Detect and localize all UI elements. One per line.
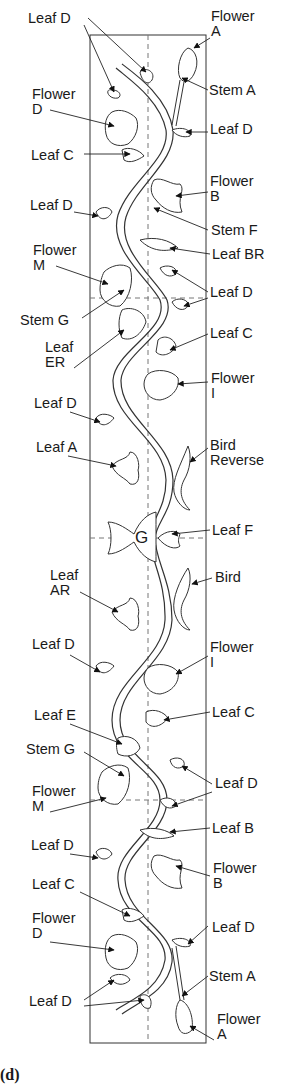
callout-label: Stem F: [211, 223, 258, 238]
callout-label: Flower A: [211, 9, 255, 39]
leader-flower-a-bottom: [190, 1026, 214, 1040]
callout-label: Leaf D: [30, 198, 73, 213]
callout-label: Stem A: [209, 969, 256, 984]
callout-label: Leaf D: [210, 122, 253, 137]
leader-leaf-er: [74, 330, 124, 368]
leaf-d-12: [172, 938, 190, 946]
flower-m-top: [100, 265, 132, 306]
leader-leaf-d-5: [172, 270, 208, 292]
leader-leaf-b: [170, 828, 210, 832]
callout-label: Leaf C: [31, 148, 74, 163]
leader-leaf-d-1a: [88, 18, 146, 72]
callout-label: Leaf D: [31, 838, 74, 853]
leader-stem-a-bottom: [182, 976, 208, 996]
callout-label: Leaf B: [212, 821, 254, 836]
callout-label: Leaf D: [29, 994, 72, 1009]
callout-label: Leaf C: [210, 326, 253, 341]
callout-label: Flower B: [213, 861, 257, 891]
flower-b-bottom: [151, 855, 182, 888]
figure-part-letter: (d): [0, 1066, 20, 1084]
leaf-ar: [112, 598, 139, 630]
leader-flower-d-bottom: [50, 942, 114, 950]
flower-d-bottom: [105, 934, 137, 969]
callout-label: Flower M: [32, 784, 76, 814]
callout-label: Leaf D: [215, 776, 258, 791]
callout-label: Stem G: [26, 742, 75, 757]
leader-leaf-a: [68, 456, 116, 466]
leaf-d-14: [140, 995, 151, 1009]
leaf-er: [119, 309, 146, 340]
leader-leaf-d-8: [70, 655, 100, 672]
callout-label: Flower D: [32, 87, 76, 117]
callout-label: Leaf D: [210, 285, 253, 300]
leader-leaf-d-12: [188, 926, 208, 944]
leaf-d-6: [172, 299, 188, 309]
flower-i-bottom: [144, 665, 178, 694]
callout-label: Leaf C: [212, 705, 255, 720]
leader-leaf-d-13: [84, 980, 114, 1000]
leaf-a: [112, 452, 139, 484]
leaf-c-bottom: [122, 908, 144, 921]
flower-a-top: [178, 48, 196, 81]
callout-label: Flower I: [210, 640, 254, 670]
leader-leaf-d-7: [70, 412, 100, 422]
leader-leaf-c-bottom: [80, 892, 130, 916]
leader-leaf-c-mid: [170, 334, 208, 350]
flower-a-bottom: [176, 1000, 193, 1033]
leader-leaf-c-lower: [164, 712, 210, 720]
callout-label: Leaf F: [212, 523, 253, 538]
leaf-d-13: [110, 974, 130, 984]
callout-label: Leaf D: [212, 920, 255, 935]
callout-label: Stem G: [20, 313, 69, 328]
stem-a-top: [172, 80, 184, 126]
center-g-motif: [108, 512, 156, 562]
leaf-d-11: [96, 848, 112, 859]
leader-flower-a-top: [194, 38, 210, 48]
flower-d-top: [105, 110, 137, 145]
callout-label: Leaf A: [36, 440, 77, 455]
callout-label: Leaf ER: [45, 340, 73, 370]
leaf-d-7: [96, 414, 114, 425]
leader-bird: [192, 578, 212, 584]
leaf-d-4: [96, 208, 112, 219]
callout-label: Bird: [215, 570, 241, 585]
leader-flower-i-bottom: [176, 656, 208, 674]
leader-leaf-d-9: [182, 766, 212, 784]
callout-label: Flower D: [32, 911, 76, 941]
callout-label: Leaf BR: [212, 247, 264, 262]
leader-leaf-d-11: [70, 854, 98, 858]
leader-flower-i-top: [178, 382, 208, 384]
leaf-c-top: [122, 148, 144, 161]
callout-label: Leaf D: [28, 11, 71, 26]
callout-label: Leaf AR: [50, 568, 78, 598]
callout-label: Flower I: [211, 371, 255, 401]
leaf-b: [140, 828, 174, 838]
leader-bird-reverse: [190, 448, 208, 462]
bird-reverse: [174, 446, 190, 510]
callout-label: Stem A: [209, 83, 256, 98]
callout-label: Leaf C: [32, 877, 75, 892]
leader-leaf-d-4: [74, 212, 98, 216]
leaf-d-3: [172, 128, 190, 136]
leader-leaf-ar: [80, 592, 118, 612]
leaf-c-lower: [146, 710, 168, 726]
stem-a-bottom: [172, 946, 184, 1000]
callout-label: Flower A: [217, 1012, 261, 1042]
callout-label: Leaf D: [32, 637, 75, 652]
center-marker-g: G: [135, 528, 148, 548]
flower-i-top: [144, 371, 178, 400]
leader-leaf-br: [170, 248, 210, 254]
callout-label: Flower M: [33, 243, 77, 273]
callout-label: Bird Reverse: [210, 438, 264, 468]
leaf-c-mid: [156, 337, 176, 355]
callout-label: Leaf E: [34, 708, 76, 723]
bird: [174, 568, 190, 630]
leaf-e: [117, 736, 141, 756]
leader-stem-a-top: [182, 78, 208, 90]
callout-label: Flower B: [210, 174, 254, 204]
callout-label: Leaf D: [34, 396, 77, 411]
